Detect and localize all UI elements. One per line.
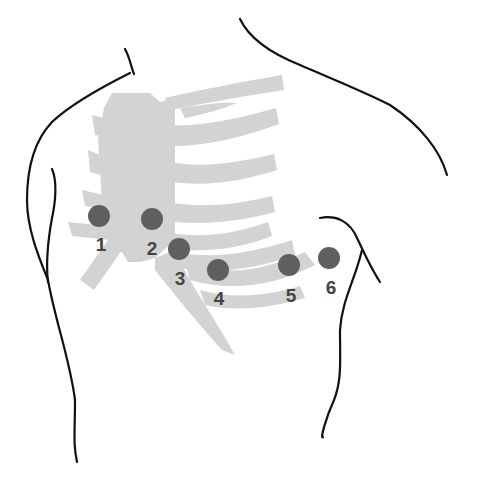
neck-left-line bbox=[125, 49, 134, 74]
electrode-label-v4: 4 bbox=[214, 288, 225, 309]
electrode-v5 bbox=[278, 254, 300, 276]
electrode-label-v5: 5 bbox=[286, 285, 297, 306]
electrode-label-v2: 2 bbox=[147, 238, 158, 259]
left-arm-inner-line bbox=[47, 169, 55, 282]
neck-right-shoulder-line bbox=[240, 19, 447, 175]
electrode-v3 bbox=[168, 238, 190, 260]
electrode-label-v3: 3 bbox=[175, 268, 186, 289]
chest-diagram: 123456 bbox=[0, 0, 484, 482]
electrode-label-v1: 1 bbox=[96, 234, 107, 255]
electrode-v1 bbox=[88, 205, 110, 227]
electrode-v2 bbox=[141, 208, 163, 230]
left-torso-line bbox=[48, 280, 77, 462]
electrode-label-v6: 6 bbox=[326, 277, 337, 298]
electrode-v6 bbox=[318, 247, 340, 269]
electrode-v4 bbox=[207, 259, 229, 281]
